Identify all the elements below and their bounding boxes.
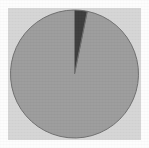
pie-svg [0, 0, 149, 148]
pie-slices-group [10, 10, 138, 138]
pie-chart-canvas [0, 0, 149, 148]
pie-chart-figure [0, 0, 149, 148]
